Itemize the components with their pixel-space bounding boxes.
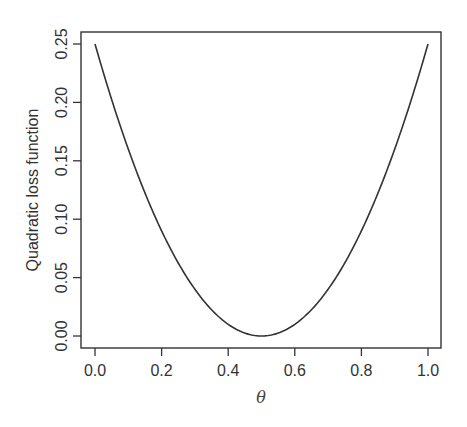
quadratic-loss-chart: 0.00.20.40.60.81.0 0.000.050.100.150.200… bbox=[0, 0, 467, 427]
y-tick-label: 0.00 bbox=[53, 320, 70, 351]
x-tick-label: 0.4 bbox=[217, 362, 239, 379]
x-tick-label: 0.6 bbox=[284, 362, 306, 379]
x-tick-label: 0.8 bbox=[350, 362, 372, 379]
x-axis: 0.00.20.40.60.81.0 bbox=[84, 348, 439, 379]
x-tick-label: 0.0 bbox=[84, 362, 106, 379]
y-axis: 0.000.050.100.150.200.25 bbox=[53, 28, 81, 351]
x-tick-label: 1.0 bbox=[417, 362, 439, 379]
x-tick-label: 0.2 bbox=[150, 362, 172, 379]
y-tick-label: 0.10 bbox=[53, 204, 70, 235]
y-tick-label: 0.25 bbox=[53, 28, 70, 59]
y-tick-label: 0.15 bbox=[53, 145, 70, 176]
y-axis-title: Quadratic loss function bbox=[24, 109, 41, 272]
plot-frame bbox=[81, 32, 441, 348]
x-axis-title: θ bbox=[256, 388, 266, 407]
y-tick-label: 0.05 bbox=[53, 262, 70, 293]
y-tick-label: 0.20 bbox=[53, 87, 70, 118]
loss-curve bbox=[95, 44, 428, 336]
